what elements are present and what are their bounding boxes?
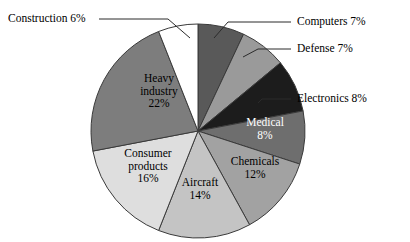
slice-label-medical: Medical 8% [228, 116, 302, 141]
pie-chart: Computers 7%Defense 7%Electronics 8%Medi… [0, 0, 410, 242]
callout-label-computers: Computers 7% [297, 15, 366, 28]
slice-label-aircraft-line-2: 14% [162, 189, 238, 202]
pie-chart-canvas: Computers 7%Defense 7%Electronics 8%Medi… [0, 0, 410, 242]
slice-label-heavy-industry-line-1: Heavy [119, 72, 199, 85]
callout-label-construction: Construction 6% [8, 12, 86, 25]
slice-label-consumer-products-line-3: 16% [103, 172, 193, 185]
slice-label-medical-line-1: Medical [228, 116, 302, 129]
slice-label-heavy-industry-line-2: industry [119, 85, 199, 98]
slice-label-consumer-products: Consumer products 16% [103, 147, 193, 185]
slice-label-consumer-products-line-2: products [103, 160, 193, 173]
callout-label-defense: Defense 7% [297, 42, 353, 55]
slice-label-chemicals-line-1: Chemicals [215, 155, 295, 168]
slice-label-medical-line-2: 8% [228, 129, 302, 142]
slice-label-consumer-products-line-1: Consumer [103, 147, 193, 160]
slice-label-heavy-industry: Heavy industry 22% [119, 72, 199, 110]
slice-label-heavy-industry-line-3: 22% [119, 97, 199, 110]
callout-label-electronics: Electronics 8% [297, 92, 367, 105]
